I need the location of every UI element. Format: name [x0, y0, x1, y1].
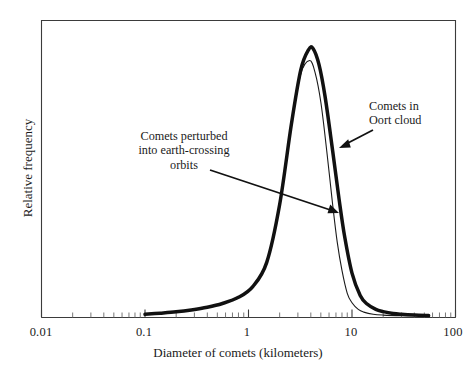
annotation-oort-cloud-label: Comets in Oort cloud: [369, 99, 461, 128]
annotation-arrow-earth-crossing: [210, 170, 339, 213]
x-tick-label-0: 0.01: [30, 325, 53, 340]
x-tick-label-2: 1: [244, 325, 250, 340]
x-tick-label-3: 10: [345, 325, 358, 340]
plot-frame: [42, 21, 456, 318]
chart-figure: 0.01 0.1 1 10 100 Diameter of comets (ki…: [0, 0, 476, 373]
x-tick-label-1: 0.1: [136, 325, 152, 340]
x-axis-title: Diameter of comets (kilometers): [0, 345, 476, 361]
curve-oort-cloud-comets: [145, 47, 429, 316]
chart-canvas: [0, 0, 476, 373]
x-tick-label-4: 100: [443, 325, 462, 340]
annotation-arrow-oort-cloud: [339, 130, 373, 148]
y-axis-title: Relative frequency: [20, 68, 36, 268]
annotation-earth-crossing-label: Comets perturbed into earth-crossing orb…: [126, 129, 242, 172]
